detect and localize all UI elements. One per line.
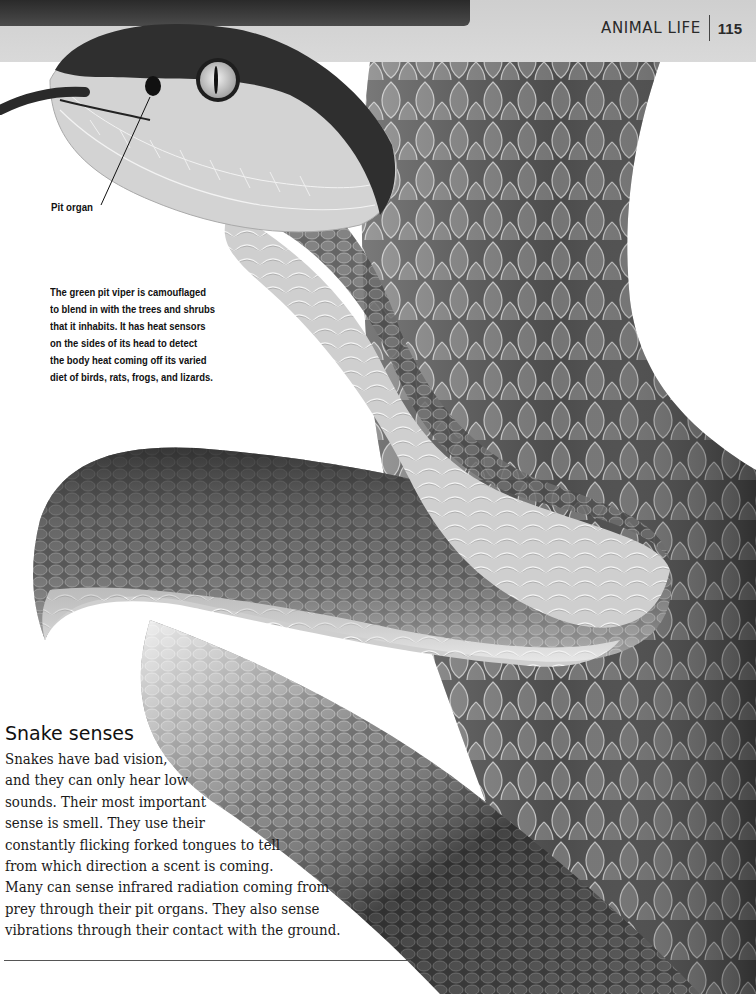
body-line: prey through their pit organs. They also… <box>5 899 341 920</box>
head-divider <box>709 15 710 41</box>
body-line: Many can sense infrared radiation coming… <box>5 877 341 898</box>
body-line: from which direction a scent is coming. <box>5 856 341 877</box>
section-title: Snake senses <box>5 722 134 744</box>
body-line: sense is smell. They use their <box>5 813 341 834</box>
caption-line: the body heat coming off its varied <box>50 352 222 369</box>
body-line: constantly flicking forked tongues to te… <box>5 835 341 856</box>
page-number: 115 <box>718 20 742 37</box>
caption-line: diet of birds, rats, frogs, and lizards. <box>50 369 222 386</box>
photo-caption: The green pit viper is camouflaged to bl… <box>50 284 222 386</box>
body-line: and they can only hear low <box>5 770 341 791</box>
section-divider-rule <box>4 960 411 961</box>
caption-line: on the sides of its head to detect <box>50 335 222 352</box>
pit-organ-label: Pit organ <box>51 201 93 213</box>
running-head: ANIMAL LIFE 115 <box>601 16 742 40</box>
body-line: Snakes have bad vision, <box>5 749 341 770</box>
caption-line: The green pit viper is camouflaged <box>50 284 222 301</box>
section-label: ANIMAL LIFE <box>601 19 701 37</box>
body-line: sounds. Their most important <box>5 792 341 813</box>
section-body: Snakes have bad vision, and they can onl… <box>5 749 341 942</box>
caption-line: that it inhabits. It has heat sensors <box>50 318 222 335</box>
body-line: vibrations through their contact with th… <box>5 920 341 941</box>
caption-line: to blend in with the trees and shrubs <box>50 301 222 318</box>
